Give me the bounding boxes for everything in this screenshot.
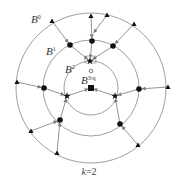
caption: k=2 <box>0 166 178 177</box>
edge-arrow <box>70 45 88 59</box>
ring-label-center: B3/q <box>81 75 95 86</box>
triangle-node <box>14 79 19 84</box>
circle-node <box>41 85 47 91</box>
edge-arrow <box>122 126 138 145</box>
circle-node <box>136 86 142 92</box>
circle-node <box>57 117 63 123</box>
circle-node <box>117 121 123 127</box>
ring-label-b2: B2 <box>65 64 75 75</box>
edge-arrow <box>52 21 68 43</box>
edge-arrow <box>93 46 113 59</box>
open-circle-node <box>89 69 93 73</box>
edge-arrow <box>115 24 134 44</box>
edge-arrow <box>118 89 139 95</box>
ring-label-b0: B0 <box>31 14 41 25</box>
edge-arrow <box>44 88 64 95</box>
circle-node <box>89 38 95 44</box>
diagram-canvas <box>0 0 178 182</box>
circle-node <box>67 42 73 48</box>
edge-arrow <box>94 15 107 33</box>
edge-arrow <box>31 121 57 131</box>
edge-arrow <box>17 82 41 87</box>
triangle-node <box>131 21 136 26</box>
edge-arrow <box>57 123 60 153</box>
edge-arrow <box>60 99 66 120</box>
triangle-node <box>49 18 54 23</box>
circle-node <box>110 43 116 49</box>
ring-label-b1: B1 <box>46 46 56 57</box>
edge-arrow <box>142 87 168 89</box>
edge-arrow <box>116 99 120 124</box>
triangle-node <box>54 150 59 155</box>
triangle-node <box>88 13 93 18</box>
edge-arrow <box>91 16 92 38</box>
